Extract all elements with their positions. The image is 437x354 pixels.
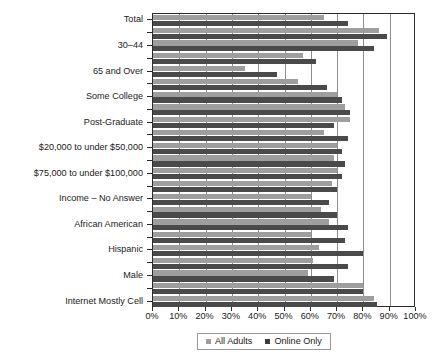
y-axis-label: 65 and Over [93, 66, 143, 76]
bar [153, 181, 332, 186]
x-axis-tick [205, 307, 206, 311]
bar [153, 207, 321, 212]
bar-fill [153, 53, 303, 58]
bar-fill [153, 194, 311, 199]
x-axis-tick [284, 307, 285, 311]
bar [153, 289, 363, 294]
bar-fill [153, 104, 345, 109]
bar [153, 264, 348, 269]
bar-fill [153, 270, 308, 275]
bar-series-container [153, 14, 414, 306]
bar-fill [153, 289, 363, 294]
bar [153, 149, 342, 154]
plot-area [152, 13, 415, 307]
bar-fill [153, 155, 334, 160]
bar-fill [153, 302, 377, 307]
chart-legend: All AdultsOnline Only [197, 333, 331, 350]
bar [153, 187, 337, 192]
bar-fill [153, 123, 334, 128]
bar [153, 270, 308, 275]
bar [153, 59, 316, 64]
bar-chart: Total30–4465 and OverSome CollegePost-Gr… [0, 0, 437, 354]
x-axis-tick [231, 307, 232, 311]
y-axis-label: Some College [86, 91, 143, 101]
legend-swatch-icon [265, 339, 270, 344]
bar-fill [153, 181, 332, 186]
bar [153, 258, 313, 263]
x-axis-label: 60% [301, 311, 319, 321]
bar-fill [153, 276, 334, 281]
bar [153, 46, 374, 51]
x-axis-tick [362, 307, 363, 311]
bar [153, 225, 348, 230]
bar-fill [153, 296, 374, 301]
y-axis-label: African American [74, 219, 143, 229]
x-axis-tick [178, 307, 179, 311]
bar-fill [153, 143, 337, 148]
bar-fill [153, 245, 319, 250]
bar [153, 212, 337, 217]
bar [153, 232, 311, 237]
bar-fill [153, 161, 345, 166]
y-axis-label: Male [123, 270, 143, 280]
legend-entry: All Adults [206, 336, 252, 346]
bar-fill [153, 15, 324, 20]
bar [153, 53, 303, 58]
legend-label: All Adults [215, 336, 252, 346]
x-axis-tick [152, 307, 153, 311]
bar-fill [153, 28, 379, 33]
x-axis-tick [389, 307, 390, 311]
bar [153, 130, 324, 135]
y-axis-label: Income – No Answer [59, 193, 143, 203]
bar [153, 168, 337, 173]
bar [153, 174, 342, 179]
bar-fill [153, 92, 337, 97]
bar-fill [153, 168, 337, 173]
bar-fill [153, 264, 348, 269]
x-axis-label: 0% [145, 311, 158, 321]
bar [153, 245, 319, 250]
bar-fill [153, 283, 363, 288]
bar [153, 34, 387, 39]
bar [153, 194, 311, 199]
y-axis-label: Post-Graduate [84, 117, 143, 127]
x-axis-label: 70% [327, 311, 345, 321]
bar [153, 200, 329, 205]
y-axis: Total30–4465 and OverSome CollegePost-Gr… [0, 13, 152, 307]
bar-fill [153, 207, 321, 212]
bar [153, 136, 348, 141]
bar-fill [153, 21, 348, 26]
bar-fill [153, 149, 342, 154]
legend-label: Online Only [274, 336, 322, 346]
bar [153, 40, 358, 45]
bar-fill [153, 59, 316, 64]
x-axis-label: 10% [169, 311, 187, 321]
bar [153, 123, 334, 128]
bar-fill [153, 46, 374, 51]
bar [153, 85, 327, 90]
x-axis-tick [415, 307, 416, 311]
bar-fill [153, 34, 387, 39]
bar-fill [153, 66, 245, 71]
bar [153, 161, 345, 166]
bar [153, 117, 350, 122]
y-axis-label: Total [124, 14, 143, 24]
bar-fill [153, 174, 342, 179]
bar [153, 92, 337, 97]
y-axis-label: $75,000 to under $100,000 [34, 168, 143, 178]
bar [153, 110, 350, 115]
y-axis-label: 30–44 [118, 40, 143, 50]
bar-fill [153, 258, 313, 263]
bar-fill [153, 200, 329, 205]
bar-fill [153, 40, 358, 45]
bar-fill [153, 232, 311, 237]
bar [153, 276, 334, 281]
legend-entry: Online Only [265, 336, 322, 346]
x-axis-tick [257, 307, 258, 311]
x-axis-tick [310, 307, 311, 311]
bar-fill [153, 72, 277, 77]
x-axis-label: 30% [222, 311, 240, 321]
bar-fill [153, 110, 350, 115]
bar [153, 15, 324, 20]
x-axis: 0%10%20%30%40%50%60%70%80%90%100% [152, 310, 415, 324]
